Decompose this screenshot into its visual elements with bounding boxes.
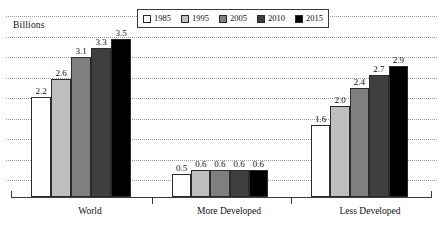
bar-column: 1.6 xyxy=(311,0,330,197)
axis-end-tick xyxy=(11,191,12,198)
x-axis-line xyxy=(11,197,432,198)
bar-group-bars: 2.22.63.13.33.5 xyxy=(31,0,131,197)
legend-item-label: 1985 xyxy=(154,14,171,23)
legend-item[interactable]: 2015 xyxy=(295,14,323,23)
legend-swatch-icon xyxy=(181,15,189,23)
axis-tick xyxy=(152,197,153,204)
legend-swatch-icon xyxy=(143,15,151,23)
bar[interactable] xyxy=(111,39,131,197)
bar-column: 0.6 xyxy=(230,0,249,197)
bar-column: 2.7 xyxy=(369,0,388,197)
category-axis-label: More Developed xyxy=(197,206,261,216)
legend-item-label: 2010 xyxy=(268,14,285,23)
bar-value-label: 2.4 xyxy=(354,78,365,87)
bar[interactable] xyxy=(191,170,210,197)
bar-value-label: 0.6 xyxy=(234,160,245,169)
legend-swatch-icon xyxy=(219,15,227,23)
bar-value-label: 2.2 xyxy=(35,87,46,96)
legend-item[interactable]: 1995 xyxy=(181,14,209,23)
bar-group: 1.62.02.42.72.9 xyxy=(311,0,408,197)
bar-column: 0.6 xyxy=(210,0,229,197)
bar-value-label: 3.3 xyxy=(95,38,106,47)
bar-column: 0.6 xyxy=(191,0,210,197)
bar-group-bars: 1.62.02.42.72.9 xyxy=(311,0,408,197)
bar-column: 2.9 xyxy=(389,0,408,197)
bar-column: 0.6 xyxy=(249,0,268,197)
bar-value-label: 2.0 xyxy=(334,96,345,105)
bar-column: 2.4 xyxy=(350,0,369,197)
bar-value-label: 0.6 xyxy=(214,160,225,169)
bar[interactable] xyxy=(330,106,349,197)
legend-item-label: 2005 xyxy=(230,14,247,23)
bar-column: 2.0 xyxy=(330,0,349,197)
bar-column: 0.5 xyxy=(172,0,191,197)
bar-chart: 2.22.63.13.33.50.50.60.60.60.61.62.02.42… xyxy=(0,0,443,232)
bar[interactable] xyxy=(350,88,369,197)
bar[interactable] xyxy=(51,79,71,197)
legend-item-label: 2015 xyxy=(306,14,323,23)
bar-value-label: 0.5 xyxy=(176,164,187,173)
bar[interactable] xyxy=(249,170,268,197)
bar-value-label: 3.5 xyxy=(115,29,126,38)
bar-column: 3.3 xyxy=(91,0,111,197)
bar-value-label: 2.6 xyxy=(55,69,66,78)
axis-end-tick xyxy=(431,191,432,198)
bar-value-label: 0.6 xyxy=(253,160,264,169)
bar-column: 2.6 xyxy=(51,0,71,197)
legend-item[interactable]: 2005 xyxy=(219,14,247,23)
bar-group: 2.22.63.13.33.5 xyxy=(31,0,131,197)
bar[interactable] xyxy=(71,57,91,197)
legend-item[interactable]: 2010 xyxy=(257,14,285,23)
plot-area: 2.22.63.13.33.50.50.60.60.60.61.62.02.42… xyxy=(0,0,443,197)
bar-value-label: 1.6 xyxy=(315,115,326,124)
bar-value-label: 2.9 xyxy=(393,56,404,65)
bar-value-label: 2.7 xyxy=(373,65,384,74)
bar-value-label: 0.6 xyxy=(195,160,206,169)
legend-item[interactable]: 1985 xyxy=(143,14,171,23)
bar-group-bars: 0.50.60.60.60.6 xyxy=(172,0,268,197)
bar-column: 3.1 xyxy=(71,0,91,197)
bar[interactable] xyxy=(369,75,388,197)
bar[interactable] xyxy=(311,125,330,197)
chart-legend: 19851995200520102015 xyxy=(137,9,329,28)
y-axis-label: Billions xyxy=(13,20,45,30)
bar[interactable] xyxy=(389,66,408,197)
legend-swatch-icon xyxy=(295,15,303,23)
bar[interactable] xyxy=(31,97,51,197)
bar-group: 0.50.60.60.60.6 xyxy=(172,0,268,197)
category-axis-label: Less Developed xyxy=(340,206,401,216)
axis-tick xyxy=(291,197,292,204)
bar-column: 3.5 xyxy=(111,0,131,197)
category-axis-label: World xyxy=(78,206,102,216)
bar[interactable] xyxy=(210,170,229,197)
bar[interactable] xyxy=(91,48,111,197)
legend-swatch-icon xyxy=(257,15,265,23)
legend-item-label: 1995 xyxy=(192,14,209,23)
bar[interactable] xyxy=(230,170,249,197)
bar-value-label: 3.1 xyxy=(75,47,86,56)
bar[interactable] xyxy=(172,174,191,197)
